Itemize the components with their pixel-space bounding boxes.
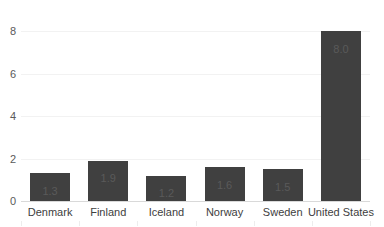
category-label-sweden: Sweden: [263, 206, 303, 218]
y-tick-label-8: 8: [0, 26, 16, 37]
y-tick-label-2: 2: [0, 154, 16, 165]
bars-layer: 1.3 Denmark 1.9 Finland 1.2 Iceland 1.6 …: [21, 0, 370, 227]
bar-group-iceland[interactable]: 1.2 Iceland: [137, 0, 195, 227]
bar-group-sweden[interactable]: 1.5 Sweden: [254, 0, 312, 227]
x-tick-sweden: [254, 221, 255, 226]
bar-group-norway[interactable]: 1.6 Norway: [196, 0, 254, 227]
category-label-finland: Finland: [90, 206, 126, 218]
y-tick-label-6: 6: [0, 69, 16, 80]
bar-united-states[interactable]: [321, 31, 361, 201]
x-tick-iceland: [137, 221, 138, 226]
x-tick-norway: [196, 221, 197, 226]
x-tick-finland: [79, 221, 80, 226]
category-label-iceland: Iceland: [149, 206, 184, 218]
bar-value-united-states: 8.0: [333, 44, 348, 55]
bar-chart: 8 6 4 2 0 1.3 Denmark 1.9 Finland 1.2 Ic…: [0, 0, 384, 227]
y-tick-label-4: 4: [0, 111, 16, 122]
bar-group-denmark[interactable]: 1.3 Denmark: [21, 0, 79, 227]
category-label-united-states: United States: [308, 206, 374, 218]
bar-value-norway: 1.6: [217, 180, 232, 191]
bar-value-finland: 1.9: [101, 173, 116, 184]
y-tick-label-0: 0: [0, 196, 16, 207]
bar-value-iceland: 1.2: [159, 188, 174, 199]
category-label-denmark: Denmark: [28, 206, 73, 218]
category-label-norway: Norway: [206, 206, 243, 218]
x-tick-united-states: [312, 221, 313, 226]
x-tick-end: [370, 221, 371, 226]
x-tick-denmark: [21, 221, 22, 226]
bar-group-united-states[interactable]: 8.0 United States: [312, 0, 370, 227]
bar-value-sweden: 1.5: [275, 182, 290, 193]
bar-group-finland[interactable]: 1.9 Finland: [79, 0, 137, 227]
bar-value-denmark: 1.3: [42, 186, 57, 197]
